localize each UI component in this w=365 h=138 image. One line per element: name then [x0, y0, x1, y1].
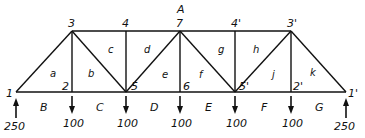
load-value: 100 — [117, 117, 138, 130]
node-label: 4' — [231, 17, 241, 30]
node-label: 7 — [176, 17, 183, 30]
space-label: D — [150, 101, 158, 114]
load-value: 250 — [334, 120, 355, 133]
arrow-down-icon — [232, 106, 238, 114]
space-label: E — [205, 101, 212, 114]
load-value: 100 — [226, 117, 247, 130]
space-label: G — [315, 101, 324, 114]
load-down-4: 100 — [226, 96, 247, 130]
panel-label: h — [253, 44, 259, 55]
panel-label: j — [270, 69, 275, 80]
panel-label: d — [144, 44, 151, 55]
arrow-down-icon — [123, 106, 129, 114]
arrow-down-icon — [69, 106, 75, 114]
node-label: 2 — [62, 80, 69, 93]
node-label: 1' — [348, 87, 358, 100]
node-label: 5 — [131, 80, 138, 93]
panel-label: g — [218, 44, 224, 55]
load-value: 100 — [282, 117, 303, 130]
load-down-5: 100 — [282, 96, 303, 130]
node-label: 3 — [68, 17, 75, 30]
load-value: 100 — [63, 117, 84, 130]
load-down-3: 100 — [171, 96, 192, 130]
arrow-down-icon — [177, 106, 183, 114]
panel-label: c — [108, 44, 114, 55]
node-label: 4 — [122, 17, 129, 30]
arrow-down-icon — [288, 106, 294, 114]
load-down-1: 100 — [63, 96, 84, 130]
truss-labels: 12565'2'1'3474'3'AabcdefghjkBCDEFG — [6, 3, 358, 114]
space-label: B — [40, 101, 48, 114]
top-space-label: A — [176, 3, 185, 16]
load-value: 250 — [4, 120, 25, 133]
load-down-2: 100 — [117, 96, 138, 130]
node-label: 6 — [183, 80, 190, 93]
truss-diagram: 250100100100100100250 12565'2'1'3474'3'A… — [0, 0, 365, 138]
load-arrows: 250100100100100100250 — [4, 96, 355, 133]
arrow-up-icon — [13, 98, 19, 106]
panel-label: b — [88, 68, 94, 79]
panel-label: e — [162, 69, 168, 80]
node-label: 2' — [293, 80, 303, 93]
load-up-0: 250 — [4, 98, 25, 133]
panel-label: a — [50, 68, 56, 79]
panel-label: k — [310, 67, 317, 78]
member-3-5 — [72, 31, 126, 92]
node-label: 5' — [239, 80, 249, 93]
space-label: C — [96, 101, 104, 114]
load-value: 100 — [171, 117, 192, 130]
load-up-6: 250 — [334, 98, 355, 133]
space-label: F — [261, 101, 268, 114]
node-label: 1 — [6, 87, 13, 100]
node-label: 3' — [287, 17, 297, 30]
panel-label: f — [199, 69, 204, 80]
